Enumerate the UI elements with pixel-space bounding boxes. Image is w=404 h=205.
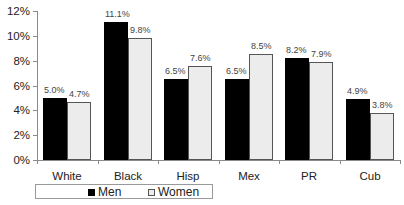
category-label: Hisp xyxy=(158,170,218,182)
x-tick xyxy=(98,160,99,164)
x-tick xyxy=(400,160,401,164)
category-label: Cub xyxy=(340,170,400,182)
data-label-men: 5.0% xyxy=(44,85,65,95)
data-label-women: 4.7% xyxy=(69,89,90,99)
data-label-men: 8.2% xyxy=(286,45,307,55)
y-tick-label: 12% xyxy=(0,5,30,17)
data-label-women: 3.8% xyxy=(372,100,393,110)
data-label-women: 7.9% xyxy=(311,49,332,59)
x-tick xyxy=(158,160,159,164)
data-label-women: 7.6% xyxy=(190,53,211,63)
y-tick-label: 6% xyxy=(0,80,30,92)
data-label-men: 4.9% xyxy=(347,86,368,96)
bar-men-black xyxy=(104,22,128,160)
legend: Men Women xyxy=(35,184,213,199)
y-axis-line xyxy=(37,11,38,160)
bar-women-cub xyxy=(370,113,394,160)
data-label-men: 6.5% xyxy=(165,66,186,76)
legend-label-women: Women xyxy=(158,185,199,199)
legend-label-men: Men xyxy=(98,185,121,199)
x-tick xyxy=(340,160,341,164)
bar-women-hisp xyxy=(188,66,212,160)
y-tick xyxy=(33,61,37,62)
y-tick xyxy=(33,36,37,37)
data-label-men: 6.5% xyxy=(226,66,247,76)
y-tick-label: 0% xyxy=(0,154,30,166)
y-tick xyxy=(33,110,37,111)
bar-women-mex xyxy=(249,54,273,160)
data-label-women: 9.8% xyxy=(130,25,151,35)
category-label: Mex xyxy=(219,170,279,182)
bar-men-cub xyxy=(346,99,370,160)
category-label: PR xyxy=(279,170,339,182)
bar-men-pr xyxy=(285,58,309,160)
data-label-men: 11.1% xyxy=(105,9,130,19)
bar-women-pr xyxy=(309,62,333,160)
bar-men-mex xyxy=(225,79,249,160)
bar-men-white xyxy=(43,98,67,160)
y-tick-label: 4% xyxy=(0,104,30,116)
bar-women-black xyxy=(128,38,152,160)
y-tick xyxy=(33,11,37,12)
category-label: White xyxy=(37,170,97,182)
y-tick-label: 2% xyxy=(0,129,30,141)
bar-men-hisp xyxy=(164,79,188,160)
data-label-women: 8.5% xyxy=(251,41,272,51)
legend-item-women: Women xyxy=(148,185,199,199)
x-tick xyxy=(219,160,220,164)
x-tick xyxy=(279,160,280,164)
category-label: Black xyxy=(98,170,158,182)
y-tick-label: 10% xyxy=(0,30,30,42)
legend-swatch-women xyxy=(148,189,155,196)
legend-item-men: Men xyxy=(88,185,121,199)
y-tick-label: 8% xyxy=(0,55,30,67)
y-tick xyxy=(33,86,37,87)
bar-women-white xyxy=(67,102,91,160)
legend-swatch-men xyxy=(88,189,95,196)
bar-chart: Men Women 0%2%4%6%8%10%12%5.0%4.7%White1… xyxy=(0,0,404,205)
y-tick xyxy=(33,135,37,136)
x-tick xyxy=(37,160,38,164)
